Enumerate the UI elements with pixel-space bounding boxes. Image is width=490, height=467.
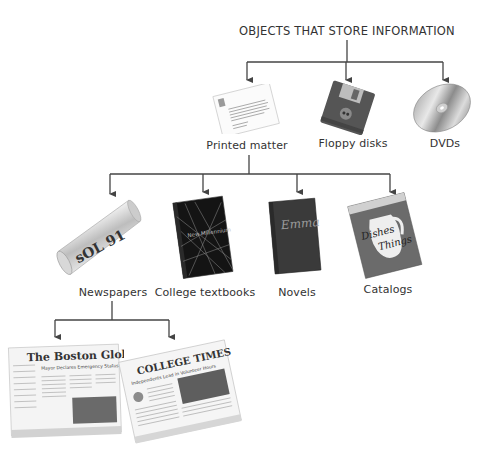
catalog-magazine-icon: Dishes Things [344, 192, 430, 280]
label-catalogs: Catalogs [364, 283, 413, 296]
boston-globe-newspaper-icon: The Boston Globe Mayor Declares Emergenc… [6, 342, 124, 442]
dvd-disc-icon [409, 82, 475, 134]
label-newspapers: Newspapers [79, 286, 147, 299]
textbook-icon: New Millennium [170, 193, 240, 283]
rolled-newspaper-icon: sOL 91 [50, 196, 150, 276]
label-dvds: DVDs [430, 137, 460, 150]
label-floppy-disks: Floppy disks [318, 137, 387, 150]
label-novels: Novels [278, 286, 316, 299]
novel-book-icon: Emma [264, 196, 328, 278]
printed-letter-icon [205, 84, 295, 134]
label-printed-matter: Printed matter [206, 139, 287, 152]
label-college-textbooks: College textbooks [155, 286, 256, 299]
floppy-disk-icon [318, 80, 378, 135]
diagram-title: OBJECTS THAT STORE INFORMATION [239, 24, 455, 38]
college-times-newspaper-icon: COLLEGE TIMES Independents Lead in Volun… [118, 336, 244, 446]
